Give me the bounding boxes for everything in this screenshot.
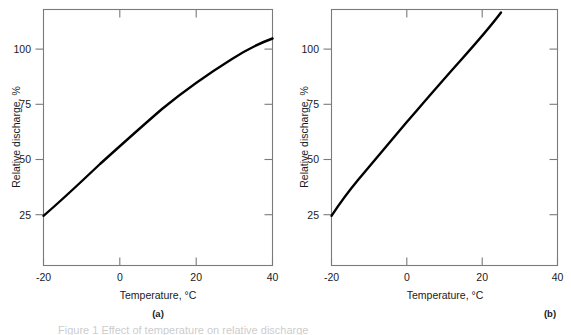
x-tick-label-a-0: -20 <box>36 271 51 283</box>
x-tick-label-b-1: 0 <box>404 271 410 283</box>
x-ticks-top-a <box>120 10 196 18</box>
panel-letter-b: (b) <box>544 308 556 319</box>
y-ticks-b <box>324 49 332 215</box>
figure-caption: Figure 1 Effect of temperature on relati… <box>58 324 558 335</box>
x-tick-label-a-2: 20 <box>190 271 202 283</box>
panel-letter-a: (a) <box>152 308 164 319</box>
x-axis-title-b: Temperature, °C <box>407 289 484 301</box>
data-curve-b <box>332 13 502 216</box>
y-axis-title-a: Relative discharge, % <box>10 86 22 188</box>
plot-frame-b <box>332 10 558 266</box>
y-axis-title-b: Relative discharge, % <box>298 86 310 188</box>
x-tick-label-b-0: -20 <box>324 271 339 283</box>
x-tick-label-a-3: 40 <box>267 271 279 283</box>
y-tick-label-b-0: 25 <box>307 209 319 221</box>
plot-b-svg: 25 50 75 100 -20 0 20 40 Temperature, °C… <box>285 0 571 332</box>
chart-panel-a: 25 50 75 100 -20 0 20 40 Temperature, °C… <box>0 0 285 332</box>
y-ticks-right-b <box>550 49 558 215</box>
x-axis-title-a: Temperature, °C <box>120 289 197 301</box>
y-tick-label-a-3: 100 <box>13 43 31 55</box>
x-ticks-top-b <box>407 10 482 18</box>
y-ticks-a <box>36 49 44 215</box>
y-tick-label-a-0: 25 <box>19 209 31 221</box>
x-ticks-b <box>332 258 558 266</box>
x-tick-label-b-3: 40 <box>552 271 564 283</box>
x-ticks-a <box>44 258 273 266</box>
plot-frame-a <box>44 10 273 266</box>
chart-panel-b: 25 50 75 100 -20 0 20 40 Temperature, °C… <box>285 0 570 332</box>
x-tick-label-a-1: 0 <box>117 271 123 283</box>
y-ticks-right-a <box>265 49 273 215</box>
plot-a-svg: 25 50 75 100 -20 0 20 40 Temperature, °C… <box>0 0 285 332</box>
y-tick-label-b-3: 100 <box>301 43 319 55</box>
data-curve-a <box>44 39 273 216</box>
x-tick-label-b-2: 20 <box>476 271 488 283</box>
